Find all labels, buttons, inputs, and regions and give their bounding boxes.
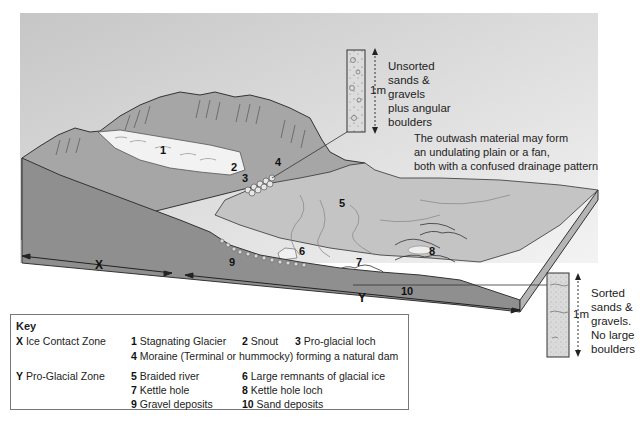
key-item-4: 4 Moraine (Terminal or hummocky) forming… bbox=[131, 350, 398, 362]
lower-column-description: Sorted sands & gravels. No large boulder… bbox=[591, 286, 635, 356]
key-zone-y: Y Pro-Glacial Zone bbox=[16, 370, 105, 382]
upper-scale-1m: 1m bbox=[370, 84, 386, 96]
upper-column-description: Unsorted sands & gravels plus angular bo… bbox=[388, 59, 451, 129]
outwash-note: The outwash material may form an undulat… bbox=[414, 131, 598, 173]
key-item-1: 1 Stagnating Glacier bbox=[131, 335, 226, 347]
key-item-5: 5 Braided river bbox=[131, 370, 199, 382]
label-1: 1 bbox=[160, 145, 166, 156]
key-title: Key bbox=[16, 320, 36, 332]
key-item-8: 8 Kettle hole loch bbox=[242, 384, 323, 396]
key-item-9: 9 Gravel deposits bbox=[131, 398, 213, 410]
key-legend: Key X Ice Contact Zone 1 Stagnating Glac… bbox=[10, 314, 409, 410]
zone-y-label: Y bbox=[358, 292, 366, 304]
label-6: 6 bbox=[299, 246, 305, 257]
label-9: 9 bbox=[229, 257, 235, 268]
label-4: 4 bbox=[275, 157, 281, 168]
label-8: 8 bbox=[429, 246, 435, 257]
zone-x-label: X bbox=[95, 259, 103, 271]
key-item-6: 6 Large remnants of glacial ice bbox=[242, 370, 385, 382]
lower-scale-1m: 1m bbox=[573, 308, 589, 320]
key-item-2: 2 Snout bbox=[242, 335, 278, 347]
key-item-3: 3 Pro-glacial loch bbox=[295, 335, 376, 347]
label-3: 3 bbox=[242, 173, 248, 184]
key-item-10: 10 Sand deposits bbox=[242, 398, 323, 410]
label-10: 10 bbox=[401, 286, 413, 297]
key-item-7: 7 Kettle hole bbox=[131, 384, 189, 396]
label-2: 2 bbox=[231, 162, 237, 173]
key-zone-x: X Ice Contact Zone bbox=[16, 335, 106, 347]
label-7: 7 bbox=[356, 257, 362, 268]
label-5: 5 bbox=[339, 198, 345, 209]
